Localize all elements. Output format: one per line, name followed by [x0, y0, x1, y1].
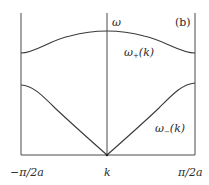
- acoustic-branch-label: ω−(k): [155, 122, 185, 136]
- x-left-label: −π/2a: [10, 166, 44, 179]
- x-right-label: π/2a: [177, 166, 203, 179]
- origin-point: [106, 154, 109, 157]
- acoustic-branch-curve: [21, 83, 195, 155]
- k-axis-label: k: [104, 166, 111, 179]
- optical-branch-curve: [21, 31, 195, 53]
- dispersion-diagram: ω (b) ω+(k) ω−(k) −π/2a k π/2a: [0, 0, 209, 185]
- omega-axis-label: ω: [112, 16, 121, 29]
- panel-label: (b): [175, 16, 191, 29]
- optical-branch-label: ω+(k): [124, 46, 154, 60]
